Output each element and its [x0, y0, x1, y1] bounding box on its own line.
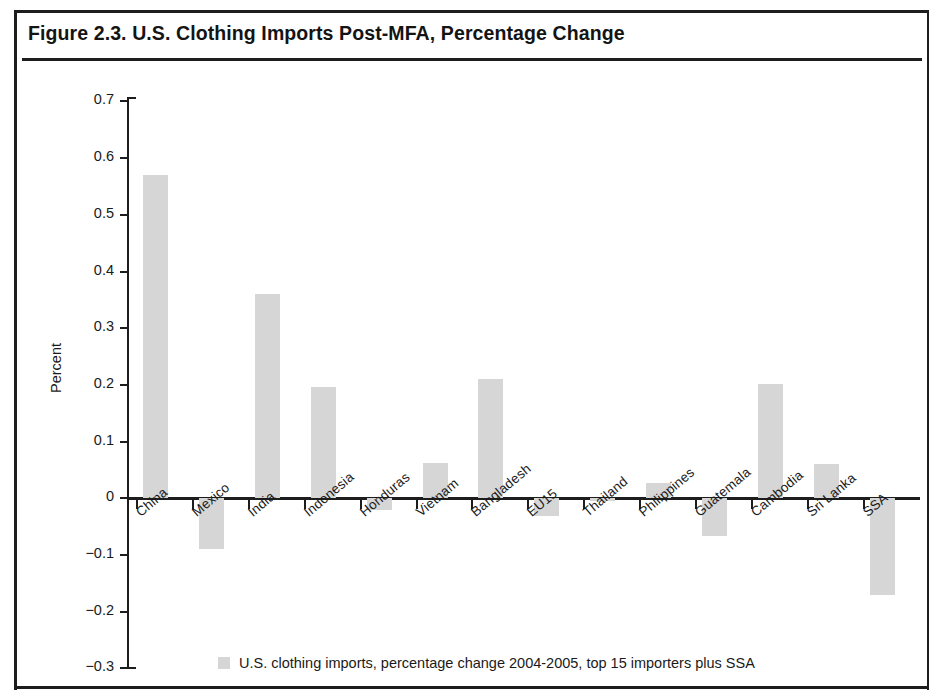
y-axis-tick [120, 271, 128, 273]
bar [255, 294, 280, 498]
y-axis-tick [120, 214, 128, 216]
y-axis-tick [120, 327, 128, 329]
y-axis-top-cap [127, 97, 136, 99]
y-axis-tick-label: −0.3 [70, 659, 114, 674]
y-axis-tick-label: 0.2 [70, 376, 114, 391]
y-axis-title: Percent [48, 308, 64, 428]
legend-label: U.S. clothing imports, percentage change… [239, 655, 755, 671]
y-axis-tick-label: −0.2 [70, 603, 114, 618]
y-axis-tick-label: 0.7 [70, 92, 114, 107]
y-axis-tick-label: 0.6 [70, 149, 114, 164]
y-axis-tick-label: −0.1 [70, 546, 114, 561]
y-axis-tick-label: 0 [70, 489, 114, 504]
y-axis-bottom-cap [127, 667, 136, 669]
y-axis-tick-label: 0.4 [70, 263, 114, 278]
bar [143, 175, 168, 498]
bar-chart-plot: Percent 0.70.60.50.40.30.20.10−0.1−0.2−0… [0, 0, 943, 700]
y-axis-tick-label: 0.3 [70, 319, 114, 334]
x-axis-category-label: Honduras [357, 469, 413, 519]
x-axis-zero-line [127, 497, 920, 500]
y-axis-tick [120, 100, 128, 102]
y-axis-tick-label: 0.5 [70, 206, 114, 221]
y-axis-tick [120, 384, 128, 386]
y-axis-tick [120, 497, 128, 499]
figure-page: Figure 2.3. U.S. Clothing Imports Post-M… [0, 0, 943, 700]
x-axis-category-label: India [245, 489, 278, 520]
y-axis-tick [120, 441, 128, 443]
y-axis-tick [120, 667, 128, 669]
chart-legend: U.S. clothing imports, percentage change… [218, 655, 755, 671]
legend-swatch-icon [218, 657, 230, 669]
y-axis-tick [120, 157, 128, 159]
y-axis-tick [120, 611, 128, 613]
y-axis-tick [120, 554, 128, 556]
y-axis-tick-label: 0.1 [70, 433, 114, 448]
